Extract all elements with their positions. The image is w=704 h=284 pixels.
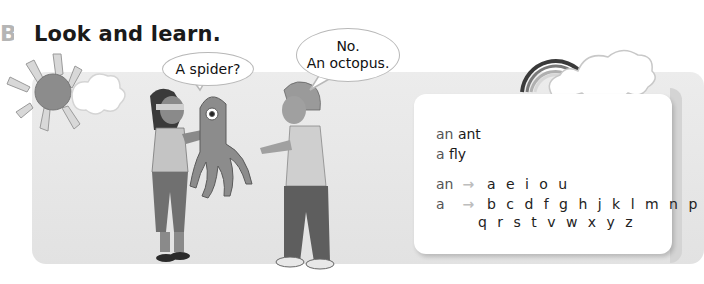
example-noun: ant xyxy=(458,126,481,142)
rule-row-continued: q r s t v w x y z xyxy=(478,214,636,230)
speech-bubble-girl: A spider? xyxy=(162,52,254,86)
example-noun: fly xyxy=(449,146,466,162)
arrow-icon: → xyxy=(462,196,482,212)
speech-bubble-line2: An octopus. xyxy=(297,55,399,72)
example-row: an ant xyxy=(436,126,481,142)
rule-article: an xyxy=(436,176,458,192)
rule-row: an → a e i o u xyxy=(436,176,570,192)
rule-row: a → b c d f g h j k l m n p xyxy=(436,196,700,212)
rule-letters: q r s t v w x y z xyxy=(478,214,636,230)
speech-bubble-text: A spider? xyxy=(176,61,241,77)
example-article: a xyxy=(436,146,445,162)
rule-letters: a e i o u xyxy=(487,176,570,192)
example-article: an xyxy=(436,126,453,142)
arrow-icon: → xyxy=(462,176,482,192)
speech-bubble-line1: No. xyxy=(297,38,399,55)
speech-bubble-boy: No. An octopus. xyxy=(296,28,400,82)
grammar-card: an ant a fly an → a e i o u a → b c d f … xyxy=(414,94,672,254)
rule-letters: b c d f g h j k l m n p xyxy=(487,196,700,212)
example-row: a fly xyxy=(436,146,466,162)
rule-article: a xyxy=(436,196,458,212)
